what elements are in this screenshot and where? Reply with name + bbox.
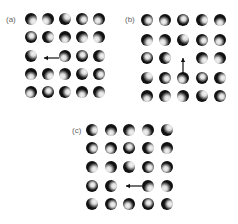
arrow-left-icon [0, 0, 238, 224]
